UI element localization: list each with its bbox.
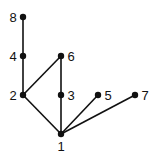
node-label-4: 4 [9,49,16,64]
edge-1-2 [23,95,61,134]
node-label-6: 6 [67,49,74,64]
node-label-2: 2 [9,88,16,103]
hasse-diagram: 12345678 [0,0,159,157]
node-1 [58,131,64,137]
node-4 [20,53,26,59]
node-5 [95,92,101,98]
node-label-3: 3 [67,88,74,103]
labels-group: 12345678 [9,10,148,154]
node-3 [58,92,64,98]
node-8 [20,14,26,20]
node-label-1: 1 [57,139,64,154]
edges-group [23,17,135,134]
node-label-5: 5 [104,88,111,103]
node-label-7: 7 [141,88,148,103]
nodes-group [20,14,138,137]
node-label-8: 8 [9,10,16,25]
node-7 [132,92,138,98]
node-6 [58,53,64,59]
node-2 [20,92,26,98]
edge-2-6 [23,56,61,95]
